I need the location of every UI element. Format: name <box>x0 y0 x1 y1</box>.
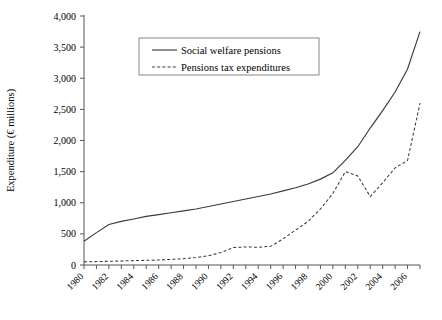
legend-label: Pensions tax expenditures <box>181 62 290 73</box>
x-tick-label: 1990 <box>189 271 210 292</box>
y-axis-title-text: Expenditure (€ millions) <box>5 88 17 192</box>
line-chart: 05001,0001,5002,0002,5003,0003,5004,000 … <box>0 0 442 320</box>
y-tick-label: 500 <box>61 228 76 239</box>
y-tick-label: 2,000 <box>54 135 77 146</box>
y-tick-label: 0 <box>71 260 76 271</box>
chart-legend: Social welfare pensionsPensions tax expe… <box>139 38 319 75</box>
x-tick-label: 2000 <box>314 271 335 292</box>
x-tick-label: 1982 <box>90 271 111 292</box>
x-tick-label: 1996 <box>264 271 285 292</box>
x-tick-label: 1984 <box>115 271 136 292</box>
x-tick-label: 1994 <box>239 271 260 292</box>
x-axis: 1980198219841986198819901992199419961998… <box>65 265 420 292</box>
y-tick-label: 4,000 <box>54 11 77 22</box>
legend-label: Social welfare pensions <box>181 45 281 56</box>
x-tick-label: 2002 <box>339 271 360 292</box>
y-axis: 05001,0001,5002,0002,5003,0003,5004,000 <box>54 11 85 271</box>
y-axis-title: Expenditure (€ millions) <box>5 88 17 192</box>
x-tick-label: 2004 <box>364 271 385 292</box>
x-tick-label: 1988 <box>164 271 185 292</box>
y-tick-label: 2,500 <box>54 104 77 115</box>
y-tick-label: 1,000 <box>54 197 77 208</box>
y-tick-label: 1,500 <box>54 166 77 177</box>
x-tick-label: 1980 <box>65 271 86 292</box>
series-line-2 <box>84 103 420 262</box>
x-tick-label: 2006 <box>388 271 409 292</box>
x-tick-label: 1992 <box>214 271 235 292</box>
x-tick-label: 1986 <box>140 271 161 292</box>
x-tick-label: 1998 <box>289 271 310 292</box>
chart-canvas: 05001,0001,5002,0002,5003,0003,5004,000 … <box>0 0 442 320</box>
y-tick-label: 3,000 <box>54 73 77 84</box>
y-tick-label: 3,500 <box>54 42 77 53</box>
